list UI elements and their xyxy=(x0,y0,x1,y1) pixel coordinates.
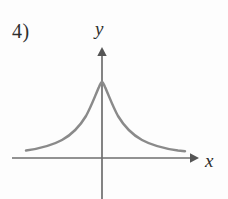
y-axis-label: y xyxy=(95,19,103,39)
x-axis-arrowhead-icon xyxy=(190,153,199,163)
figure-root: 4) y x xyxy=(0,0,228,199)
y-axis-arrowhead-icon xyxy=(97,47,106,56)
bell-curve-path xyxy=(26,82,185,151)
x-axis-label: x xyxy=(205,151,213,171)
graph-canvas xyxy=(0,0,228,199)
